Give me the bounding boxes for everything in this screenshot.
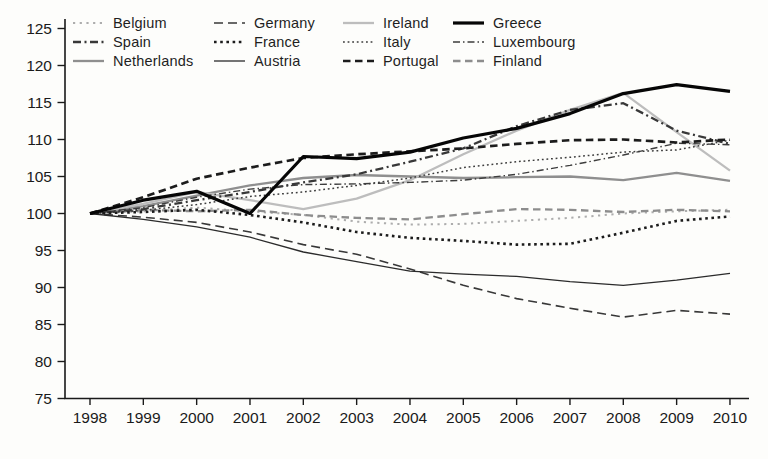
legend-item-ireland: Ireland <box>342 15 452 31</box>
legend-label: Luxembourg <box>493 34 576 50</box>
y-tick-label: 85 <box>35 316 52 333</box>
legend-label: Spain <box>113 34 151 50</box>
x-tick-label: 2000 <box>179 409 214 426</box>
legend-swatch-italy-line-icon <box>342 37 375 47</box>
chart-legend: BelgiumSpainNetherlandsGermanyFranceAust… <box>72 13 576 70</box>
legend-item-spain: Spain <box>72 34 213 50</box>
chart-page: 7580859095100105110115120125199819992000… <box>0 0 768 459</box>
legend-item-austria: Austria <box>213 53 342 69</box>
legend-label: Germany <box>254 15 315 31</box>
legend-swatch-greece-line-icon <box>452 18 485 28</box>
legend-item-france: France <box>213 34 342 50</box>
legend-label: Ireland <box>383 15 429 31</box>
legend-swatch-spain-line-icon <box>72 37 105 47</box>
series-line-greece <box>90 85 730 214</box>
legend-swatch-portugal-line-icon <box>342 56 375 66</box>
x-tick-label: 2003 <box>339 409 373 426</box>
legend-swatch-finland-line-icon <box>452 56 485 66</box>
y-tick-label: 95 <box>35 242 52 259</box>
series-line-finland <box>90 209 730 219</box>
legend-item-belgium: Belgium <box>72 15 213 31</box>
legend-label: Portugal <box>383 53 439 69</box>
legend-swatch-ireland-line-icon <box>342 18 375 28</box>
x-tick-label: 2007 <box>553 409 587 426</box>
x-tick-label: 2009 <box>659 409 693 426</box>
legend-swatch-netherlands-line-icon <box>72 56 105 66</box>
legend-label: Belgium <box>113 15 167 31</box>
series-line-austria <box>90 214 730 286</box>
x-tick-label: 1999 <box>126 409 160 426</box>
legend-label: Austria <box>254 53 301 69</box>
y-tick-label: 90 <box>35 279 53 296</box>
y-tick-label: 80 <box>35 353 53 370</box>
axes <box>65 19 749 399</box>
x-tick-label: 2008 <box>606 409 640 426</box>
legend-label: France <box>254 34 300 50</box>
legend-swatch-austria-line-icon <box>213 56 246 66</box>
legend-swatch-luxembourg-line-icon <box>452 37 485 47</box>
y-tick-label: 110 <box>27 131 52 148</box>
legend-item-luxembourg: Luxembourg <box>452 34 576 50</box>
legend-swatch-germany-line-icon <box>213 18 246 28</box>
legend-label: Greece <box>493 15 542 31</box>
legend-swatch-belgium-line-icon <box>72 18 105 28</box>
x-tick-label: 2004 <box>393 409 428 426</box>
legend-item-italy: Italy <box>342 34 452 50</box>
legend-item-finland: Finland <box>452 53 576 69</box>
series-line-france <box>90 210 730 245</box>
y-tick-label: 75 <box>35 390 52 407</box>
y-tick-label: 125 <box>26 20 52 37</box>
y-tick-label: 115 <box>27 94 52 111</box>
legend-item-greece: Greece <box>452 15 576 31</box>
legend-label: Italy <box>383 34 411 50</box>
legend-label: Netherlands <box>113 53 193 69</box>
legend-label: Finland <box>493 53 542 69</box>
legend-item-germany: Germany <box>213 15 342 31</box>
y-tick-label: 120 <box>26 57 52 74</box>
x-tick-label: 1998 <box>73 409 107 426</box>
legend-item-netherlands: Netherlands <box>72 53 213 69</box>
legend-swatch-france-line-icon <box>213 37 246 47</box>
x-tick-label: 2001 <box>233 409 267 426</box>
x-tick-label: 2002 <box>286 409 320 426</box>
y-tick-label: 100 <box>26 205 52 222</box>
x-tick-label: 2006 <box>499 409 533 426</box>
y-tick-label: 105 <box>26 168 52 185</box>
x-tick-label: 2005 <box>446 409 480 426</box>
x-tick-label: 2010 <box>713 409 748 426</box>
legend-item-portugal: Portugal <box>342 53 452 69</box>
